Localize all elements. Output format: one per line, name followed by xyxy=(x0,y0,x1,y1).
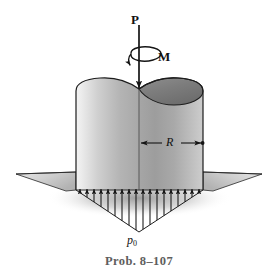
pressure-subscript: 0 xyxy=(133,239,137,248)
radius-R-label: R xyxy=(166,136,173,148)
figure-caption: Prob. 8–107 xyxy=(0,254,278,269)
moment-M-torque xyxy=(129,47,161,65)
moment-M-label: M xyxy=(158,50,170,63)
load-P-label: P xyxy=(131,13,139,26)
diagram-canvas xyxy=(0,0,278,280)
ground-left-wedge xyxy=(16,172,76,191)
cylinder-left-panel xyxy=(76,78,139,190)
problem-figure: P M R p0 Prob. 8–107 xyxy=(0,0,278,280)
ground-right-wedge xyxy=(203,172,262,191)
torque-ellipse-arc xyxy=(131,47,161,61)
pressure-p0-label: p0 xyxy=(127,234,137,248)
radius-dim-endpoint xyxy=(201,141,205,145)
cylinder-post xyxy=(76,78,203,190)
